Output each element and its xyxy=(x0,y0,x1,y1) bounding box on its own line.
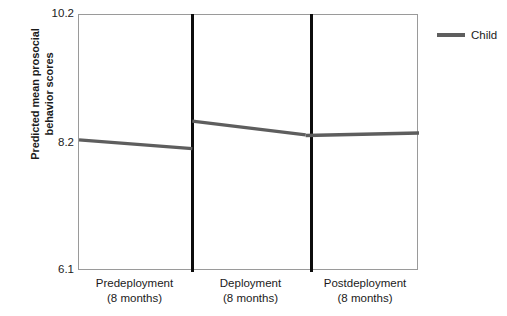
x-tick-postdeployment-sub: (8 months) xyxy=(310,291,420,306)
y-tick-label-top: 10.2 xyxy=(14,7,74,19)
x-tick-deployment-sub: (8 months) xyxy=(191,291,310,306)
x-tick-label-deployment: Deployment (8 months) xyxy=(191,276,310,306)
x-tick-predeployment-main: Predeployment xyxy=(96,277,173,289)
y-tick-label-mid: 8.2 xyxy=(14,136,74,148)
x-tick-deployment-main: Deployment xyxy=(220,277,281,289)
y-axis-ticks: 10.2 8.2 6.1 xyxy=(12,0,74,316)
x-tick-postdeployment-main: Postdeployment xyxy=(324,277,406,289)
x-tick-label-predeployment: Predeployment (8 months) xyxy=(78,276,191,306)
series-child-line xyxy=(79,15,419,271)
legend-swatch-child xyxy=(437,33,465,37)
legend-label-child: Child xyxy=(471,29,497,41)
series-segment-deployment xyxy=(192,121,305,135)
plot-area xyxy=(78,14,418,270)
legend: Child xyxy=(437,29,497,41)
series-segment-postdeployment xyxy=(306,133,419,136)
x-tick-label-postdeployment: Postdeployment (8 months) xyxy=(310,276,420,306)
y-tick-label-bottom: 6.1 xyxy=(14,263,74,275)
series-segment-predeployment xyxy=(79,140,192,149)
chart-figure: Predicted mean prosocial behavior scores… xyxy=(0,0,507,316)
x-tick-predeployment-sub: (8 months) xyxy=(78,291,191,306)
